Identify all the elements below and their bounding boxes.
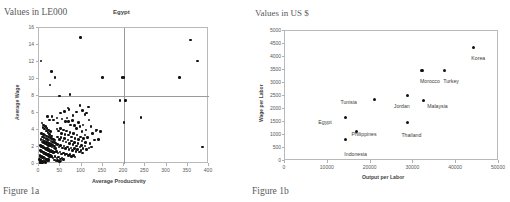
scatter-point [443,69,446,72]
scatter-point [189,39,192,42]
scatter-point [62,129,65,132]
scatter-point [87,106,90,109]
scatter-point [79,104,82,107]
scatter-point [64,120,67,123]
scatter-point [196,60,199,63]
y-tick-label: 14 [10,41,34,47]
scatter-point [77,138,80,141]
scatter-point [65,130,68,133]
scatter-point [95,130,98,133]
scatter-point [89,142,92,145]
y-tick-label: 0 [10,160,34,166]
y-tick-label: 0 [256,157,281,163]
scatter-point [81,130,84,133]
scatter-plot-right[interactable]: KoreaTurkeyMoroccoMalaysiaJordanTunisiaT… [284,30,498,160]
y-tick-mark [282,82,285,83]
y-tick-mark [282,69,285,70]
y-tick-mark [282,43,285,44]
scatter-point [68,142,71,145]
y-tick-label: 4 [10,126,34,132]
figure-caption-left: Figure 1a [3,186,39,196]
scatter-point [73,141,76,144]
x-tick-label: 0 [270,164,298,170]
scatter-point [52,119,55,122]
y-axis-title-right: Wage per Labor [258,84,264,122]
x-tick-label: 50000 [484,164,510,170]
scatter-point [56,117,59,120]
scatter-point [420,69,423,72]
scatter-point [91,132,94,135]
data-point-label: Morocco [420,78,440,84]
data-point-label: Malaysia [427,103,447,109]
y-tick-mark [282,147,285,148]
y-tick-mark [282,56,285,57]
x-tick-mark [498,160,499,163]
scatter-point [90,146,93,149]
scatter-point [77,142,80,145]
y-tick-mark [36,27,39,28]
scatter-point [64,133,67,136]
x-tick-mark [208,163,209,166]
y-tick-mark [282,95,285,96]
y-tick-mark [282,134,285,135]
x-axis-title-left: Average Productivity [92,178,146,184]
scatter-point [124,99,127,102]
x-tick-label: 10000 [313,164,341,170]
x-tick-mark [370,160,371,163]
scatter-point [49,130,52,133]
scatter-point [80,144,83,147]
x-tick-mark [166,163,167,166]
x-tick-mark [412,160,413,163]
y-tick-mark [36,44,39,45]
scatter-point [41,162,44,165]
y-tick-label: 12 [10,58,34,64]
x-tick-mark [102,163,103,166]
scatter-point [44,161,47,164]
scatter-point [82,147,85,150]
y-tick-mark [282,108,285,109]
scatter-point [59,112,62,115]
scatter-point [82,137,85,140]
y-axis-title-left: Average Wage [14,85,20,120]
scatter-point [373,98,376,101]
x-tick-mark [59,163,60,166]
scatter-point [81,109,84,112]
x-tick-label: 40000 [441,164,469,170]
scatter-point [472,46,475,49]
units-label-right: Values in US $ [255,8,309,18]
scatter-point [99,130,102,133]
scatter-point [79,125,82,128]
scatter-point [68,108,71,111]
data-point-label: Thailand [401,132,421,138]
units-label-left: Values in LE000 [4,7,67,17]
y-tick-label: 3500 [256,66,281,72]
y-tick-label: 4000 [256,53,281,59]
y-tick-label: 1000 [256,131,281,137]
scatter-point [46,115,49,118]
x-tick-mark [187,163,188,166]
y-tick-mark [36,112,39,113]
y-tick-label: 500 [256,144,281,150]
scatter-point [69,93,72,96]
scatter-point [63,137,66,140]
scatter-plot-left[interactable] [38,27,208,163]
scatter-point [60,136,63,139]
scatter-point [81,152,84,155]
y-tick-mark [282,121,285,122]
scatter-point [69,124,72,127]
x-tick-mark [144,163,145,166]
y-tick-label: 2 [10,143,34,149]
x-tick-label: 20000 [356,164,384,170]
scatter-point [90,125,93,128]
y-tick-label: 5000 [256,27,281,33]
scatter-point [344,116,347,119]
y-tick-mark [36,95,39,96]
scatter-point [344,138,347,141]
scatter-point [48,119,51,122]
data-point-label: Turkey [443,78,459,84]
scatter-point [40,60,43,63]
scatter-point [62,158,65,161]
data-point-label: Tunisia [340,99,357,105]
scatter-point [60,132,63,135]
